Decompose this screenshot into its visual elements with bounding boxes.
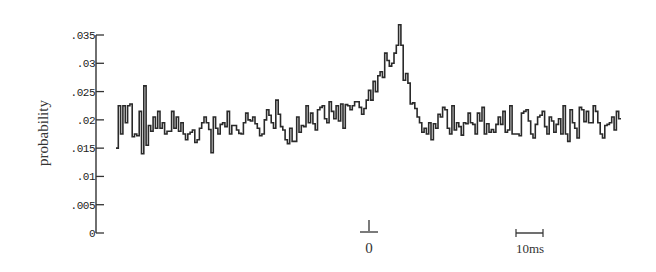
y-tick-label: .03 <box>77 58 95 70</box>
scale-bar: 10ms <box>516 229 544 256</box>
y-tick-label: .025 <box>71 87 95 99</box>
y-tick-label: .01 <box>77 171 96 183</box>
histogram-trace <box>116 25 621 154</box>
y-tick-label: .015 <box>71 143 95 155</box>
probability-histogram-chart: 0.005.01.015.02.025.03.035 probability 0… <box>0 0 656 272</box>
zero-time-marker: 0 <box>360 220 378 256</box>
y-tick-label: .035 <box>71 30 95 42</box>
y-axis-label: probability <box>35 100 51 166</box>
zero-time-label: 0 <box>365 240 373 256</box>
scale-bar-label: 10ms <box>516 241 544 256</box>
y-axis: 0.005.01.015.02.025.03.035 <box>71 30 104 240</box>
y-tick-label: .02 <box>77 115 95 127</box>
y-tick-label: .005 <box>71 200 95 212</box>
y-tick-label: 0 <box>89 228 95 240</box>
